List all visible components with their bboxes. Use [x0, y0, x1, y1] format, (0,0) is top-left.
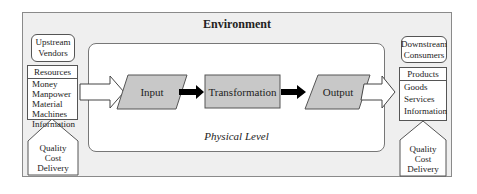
- qcd-item: Cost: [400, 154, 446, 164]
- downstream-consumers-line1: Downstream: [401, 39, 447, 50]
- resources-list: Resources Money Manpower Material Machin…: [27, 65, 78, 120]
- products-header: Products: [400, 68, 446, 81]
- upstream-vendors-line2: Vendors: [38, 48, 68, 59]
- upstream-vendors-box: Upstream Vendors: [31, 34, 75, 62]
- resource-item: Machines: [28, 109, 77, 119]
- product-item: Goods: [400, 81, 446, 93]
- resource-item: Material: [28, 99, 77, 109]
- resource-item: Information: [28, 119, 77, 129]
- downstream-consumers-box: Downstream Consumers: [401, 36, 447, 63]
- qcd-item: Cost: [28, 153, 78, 163]
- downstream-consumers-line2: Consumers: [404, 50, 445, 61]
- transformation-label: Transformation: [205, 86, 280, 98]
- right-qcd-text: Quality Cost Delivery: [400, 144, 446, 174]
- transformation-to-output-arrow: [281, 85, 306, 99]
- qcd-item: Delivery: [400, 164, 446, 174]
- qcd-item: Quality: [28, 143, 78, 153]
- resource-item: Manpower: [28, 89, 77, 99]
- left-qcd-text: Quality Cost Delivery: [28, 143, 78, 173]
- input-label: Input: [120, 86, 184, 98]
- qcd-item: Delivery: [28, 163, 78, 173]
- resources-to-input-arrow: [80, 76, 124, 108]
- qcd-item: Quality: [400, 144, 446, 154]
- product-item: Information: [400, 105, 446, 117]
- product-item: Services: [400, 93, 446, 105]
- products-list: Products Goods Services Information: [399, 67, 447, 121]
- output-label: Output: [308, 86, 368, 98]
- resources-header: Resources: [28, 66, 77, 79]
- upstream-vendors-line1: Upstream: [36, 37, 71, 48]
- resource-item: Money: [28, 79, 77, 89]
